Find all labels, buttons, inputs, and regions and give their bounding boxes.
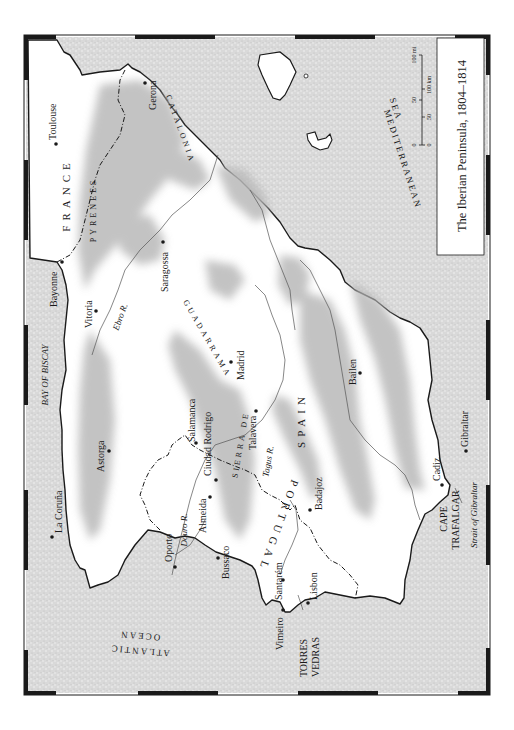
city-label: Vimeiro xyxy=(274,617,285,650)
city-lisbon: Lisbon xyxy=(306,572,319,605)
iberian-peninsula-map: The Iberian Peninsula, 1804–1814 0 50 10… xyxy=(0,0,514,730)
city-label: Bussaco xyxy=(220,546,231,579)
map-title: The Iberian Peninsula, 1804–1814 xyxy=(455,59,469,232)
scale-mi-100: 100 mi xyxy=(411,46,417,63)
scale-km-100: 100 km xyxy=(426,76,432,95)
city-label: Badajoz xyxy=(313,477,324,510)
city-label: Oporto xyxy=(163,534,174,562)
label-torres: TORRES xyxy=(298,639,309,677)
city-label: Ciudad Rodrigo xyxy=(202,412,213,476)
city-label: Gibraltar xyxy=(459,410,470,447)
city-label: Almeida xyxy=(197,498,208,533)
city-label: Santarém xyxy=(273,562,284,600)
city-la-coruna: La Coruña xyxy=(50,490,64,539)
label-cape: CAPE xyxy=(438,506,449,532)
city-label: Bayonne xyxy=(48,271,59,307)
city-label: Talavera xyxy=(247,415,258,450)
title-box: The Iberian Peninsula, 1804–1814 xyxy=(437,38,484,255)
label-douro: Douro R. xyxy=(179,513,189,547)
city-gibraltar: Gibraltar xyxy=(459,410,470,453)
label-spain: SPAIN xyxy=(295,392,307,448)
city-label: La Coruña xyxy=(53,490,64,533)
city-label: Gerona xyxy=(147,80,158,110)
label-france: FRANCE xyxy=(60,158,72,231)
label-bay-of-biscay: BAY OF BISCAY xyxy=(40,344,50,406)
label-vedras: VEDRAS xyxy=(310,637,321,677)
scale-mi-0: 0 xyxy=(411,144,417,147)
label-trafalgar: TRAFALGAR xyxy=(450,490,461,550)
scale-mi-50: 50 xyxy=(411,97,417,103)
city-label: Saragossa xyxy=(159,251,170,292)
city-label: Lisbon xyxy=(308,572,319,600)
scale-km-50: 50 xyxy=(426,114,432,120)
city-label: Bailen xyxy=(347,359,358,385)
city-label: Madrid xyxy=(235,351,246,380)
city-label: Toulouse xyxy=(47,103,58,140)
city-label: Salamanca xyxy=(186,398,197,442)
city-salamanca: Salamanca xyxy=(186,398,198,445)
scale-km-0: 0 xyxy=(426,144,432,147)
city-label: Cadiz xyxy=(431,457,442,481)
city-santarem: Santarém xyxy=(273,562,285,600)
city-label: Astorga xyxy=(95,440,106,472)
label-strait-of-gibraltar: Strait of Gibraltar xyxy=(469,482,479,549)
city-label: Vitoria xyxy=(83,300,94,328)
label-pyrenees: PYRENEES xyxy=(89,178,98,242)
city-toulouse: Toulouse xyxy=(47,103,58,146)
